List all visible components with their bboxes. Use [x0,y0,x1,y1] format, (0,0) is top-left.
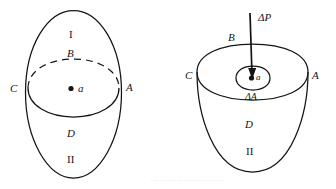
left-label-region-lower-cap: D [67,128,75,139]
figure-canvas [0,0,336,189]
caption-ghost-text: · ·· ·· · ···· ·· ···· ···· ··· ····· · [150,178,330,185]
right-label-flux-arrow: ΔP [258,12,271,23]
left-label-vertex-left: C [10,83,17,94]
right-point-a-dot [249,75,254,80]
right-label-region-upper-cap: B [228,32,235,43]
left-label-region-top-roman: I [69,29,73,40]
left-point-a-dot [68,86,73,91]
right-label-region-lower-cap: D [245,119,253,130]
right-label-vertex-right: A [312,70,319,81]
right-label-region-bottom-roman: II [246,146,253,157]
right-label-area-element: ΔA [245,92,257,102]
right-label-vertex-left: C [185,70,192,81]
left-equator-front-arc [28,88,119,117]
left-equator-back-arc [28,59,119,88]
left-label-vertex-right: A [126,82,133,93]
flux-arrow-shaft [250,13,252,75]
right-label-point-a: a [256,73,261,82]
left-label-region-bottom-roman: II [67,154,74,165]
left-label-region-upper-cap: B [67,48,74,59]
left-label-point-a: a [78,83,84,94]
